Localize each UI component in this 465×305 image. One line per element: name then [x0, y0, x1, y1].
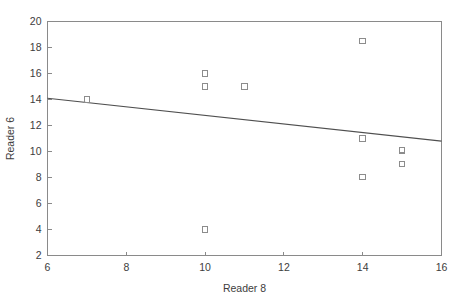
x-tick-label: 10 [199, 261, 211, 273]
plot-canvas: 24681012141618206810121416 Reader 8Reade… [0, 0, 465, 305]
data-point-marker [360, 174, 366, 180]
y-tick-label: 10 [30, 145, 42, 157]
plot-frame [48, 22, 442, 256]
x-tick-label: 16 [436, 261, 448, 273]
y-tick-label: 2 [36, 249, 42, 261]
regression-line [48, 98, 442, 141]
y-axis-title: Reader 6 [4, 117, 16, 160]
ticks-group [48, 22, 442, 256]
y-tick-label: 4 [36, 223, 42, 235]
y-tick-label: 8 [36, 171, 42, 183]
scatter-plot-figure: 24681012141618206810121416 Reader 8Reade… [0, 0, 465, 305]
data-point-marker [399, 161, 405, 167]
axis-titles-group: Reader 8Reader 6 [4, 117, 266, 294]
data-point-marker [202, 84, 208, 90]
x-tick-label: 6 [45, 261, 51, 273]
axes-group [48, 22, 442, 256]
x-axis-title: Reader 8 [223, 282, 266, 294]
x-tick-label: 8 [123, 261, 129, 273]
tick-labels-group: 24681012141618206810121416 [30, 15, 448, 272]
data-point-marker [360, 136, 366, 142]
data-point-marker [360, 38, 366, 44]
data-point-marker [242, 84, 248, 90]
data-point-marker [202, 227, 208, 233]
regression-fit-line [48, 98, 442, 141]
x-tick-label: 14 [357, 261, 369, 273]
y-tick-label: 12 [30, 119, 42, 131]
data-points-group [84, 38, 405, 232]
x-tick-label: 12 [278, 261, 290, 273]
data-point-marker [399, 147, 405, 153]
y-tick-label: 18 [30, 41, 42, 53]
data-point-marker [84, 97, 90, 103]
data-point-marker [202, 71, 208, 77]
y-tick-label: 14 [30, 93, 42, 105]
y-tick-label: 16 [30, 67, 42, 79]
y-tick-label: 6 [36, 197, 42, 209]
y-tick-label: 20 [30, 15, 42, 27]
